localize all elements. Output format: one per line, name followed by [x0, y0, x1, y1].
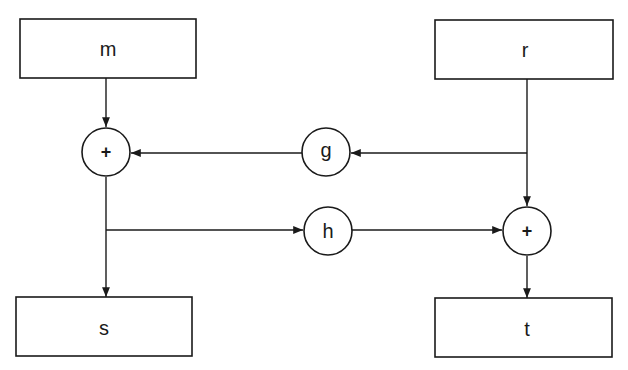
box-m: m: [20, 19, 196, 78]
gain-node-g: g: [302, 128, 350, 176]
block-diagram: m r s t + + g h: [0, 0, 628, 370]
box-t: t: [435, 298, 612, 357]
box-m-label: m: [100, 38, 117, 60]
summing-junction-right: +: [503, 207, 551, 255]
edges: [106, 78, 527, 298]
box-r: r: [435, 20, 613, 79]
gain-h-label: h: [322, 220, 333, 242]
summing-junction-left: +: [82, 128, 130, 176]
plus-icon: +: [101, 142, 112, 162]
plus-icon: +: [522, 221, 533, 241]
gain-g-label: g: [320, 139, 331, 161]
box-t-label: t: [524, 318, 530, 340]
box-r-label: r: [522, 39, 529, 61]
box-s-label: s: [99, 317, 109, 339]
box-s: s: [16, 297, 192, 356]
gain-node-h: h: [304, 207, 352, 255]
